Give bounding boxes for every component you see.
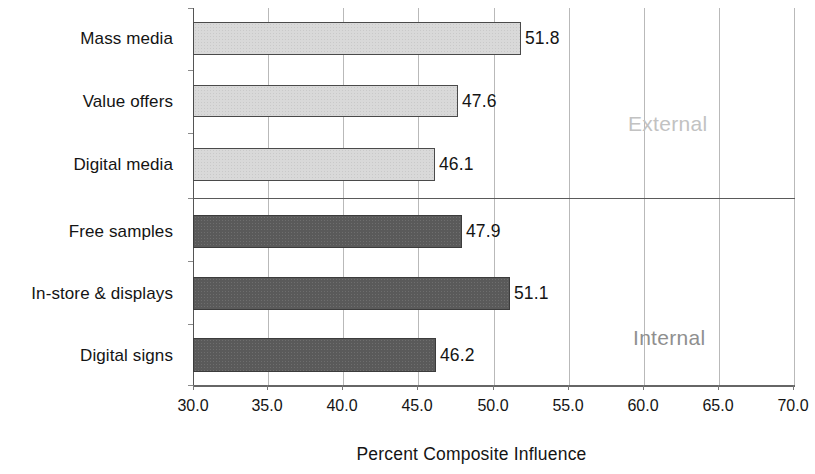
x-axis-line xyxy=(193,385,795,387)
group-annotation-external: External xyxy=(628,112,707,136)
category-label-digital-signs: Digital signs xyxy=(80,346,173,366)
gridline-45 xyxy=(418,8,419,385)
gridline-70 xyxy=(794,8,795,385)
x-tick-mark xyxy=(793,385,794,390)
x-tick-label: 60.0 xyxy=(608,397,678,415)
x-tick-mark xyxy=(193,385,194,390)
category-label-value-offers: Value offers xyxy=(83,92,173,112)
x-axis-title: Percent Composite Influence xyxy=(0,444,815,465)
x-tick-mark xyxy=(342,385,343,390)
value-label-in-store-displays: 51.1 xyxy=(514,283,548,304)
y-tick-mark xyxy=(188,385,193,386)
value-label-digital-media: 46.1 xyxy=(439,154,473,175)
y-tick-mark xyxy=(188,8,193,9)
bar-chart: Mass media Value offers Digital media Fr… xyxy=(0,0,815,474)
x-tick-mark xyxy=(643,385,644,390)
bar-mass-media[interactable] xyxy=(193,22,521,55)
x-tick-label: 30.0 xyxy=(158,397,228,415)
category-label-digital-media: Digital media xyxy=(73,155,173,175)
bar-digital-signs[interactable] xyxy=(193,338,436,372)
group-annotation-internal: Internal xyxy=(633,326,705,350)
gridline-50 xyxy=(494,8,495,385)
value-label-digital-signs: 46.2 xyxy=(440,345,474,366)
gridline-35 xyxy=(268,8,269,385)
gridline-40 xyxy=(343,8,344,385)
x-tick-label: 40.0 xyxy=(307,397,377,415)
bar-value-offers[interactable] xyxy=(193,85,458,117)
x-tick-label: 70.0 xyxy=(758,397,815,415)
x-tick-label: 35.0 xyxy=(232,397,302,415)
bar-free-samples[interactable] xyxy=(193,215,462,248)
bar-digital-media[interactable] xyxy=(193,148,435,181)
x-tick-label: 50.0 xyxy=(458,397,528,415)
value-label-free-samples: 47.9 xyxy=(466,221,500,242)
category-label-mass-media: Mass media xyxy=(80,29,173,49)
gridline-65 xyxy=(719,8,720,385)
y-tick-mark xyxy=(188,198,193,199)
y-tick-mark xyxy=(188,70,193,71)
x-tick-mark xyxy=(417,385,418,390)
group-divider-line xyxy=(193,198,795,199)
x-tick-label: 45.0 xyxy=(382,397,452,415)
y-tick-mark xyxy=(188,324,193,325)
x-tick-mark xyxy=(493,385,494,390)
bar-in-store-displays[interactable] xyxy=(193,277,510,310)
value-label-mass-media: 51.8 xyxy=(525,28,559,49)
y-tick-mark xyxy=(188,261,193,262)
x-tick-label: 65.0 xyxy=(683,397,753,415)
category-label-in-store-displays: In-store & displays xyxy=(31,284,173,304)
gridline-55 xyxy=(569,8,570,385)
x-tick-mark xyxy=(267,385,268,390)
x-tick-mark xyxy=(568,385,569,390)
x-tick-label: 55.0 xyxy=(533,397,603,415)
y-tick-mark xyxy=(188,133,193,134)
value-label-value-offers: 47.6 xyxy=(462,91,496,112)
x-tick-mark xyxy=(718,385,719,390)
x-axis-title-text: Percent Composite Influence xyxy=(356,444,586,464)
category-label-free-samples: Free samples xyxy=(69,222,173,242)
